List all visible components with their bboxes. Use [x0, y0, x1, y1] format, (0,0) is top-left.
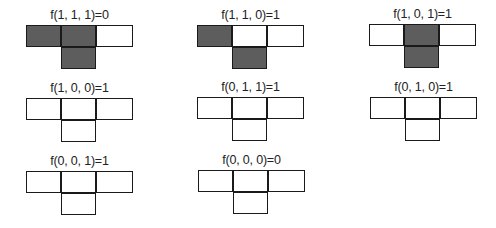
cell-center	[232, 25, 267, 47]
cell-right	[267, 25, 304, 47]
cell-right	[440, 97, 477, 119]
cell-center	[233, 170, 268, 192]
cell-right	[96, 171, 133, 193]
rule-label: f(0, 1, 0)=1	[370, 80, 477, 94]
cell-left	[197, 97, 232, 119]
cell-center	[61, 98, 96, 120]
cell-output	[61, 193, 96, 215]
cell-left	[26, 98, 61, 120]
rule-label: f(0, 1, 1)=1	[197, 80, 304, 94]
rule-label: f(1, 0, 1)=1	[369, 7, 476, 21]
cell-center	[61, 25, 96, 47]
cell-right	[268, 170, 305, 192]
rule-label: f(1, 1, 1)=0	[26, 8, 133, 22]
rule-label: f(1, 1, 0)=1	[197, 8, 304, 22]
cell-left	[197, 25, 232, 47]
cell-center	[61, 171, 96, 193]
cell-center	[405, 97, 440, 119]
rule-label: f(0, 0, 0)=0	[198, 153, 305, 167]
cell-output	[405, 119, 440, 141]
cell-left	[26, 25, 61, 47]
cell-right	[96, 98, 133, 120]
cell-center	[404, 24, 439, 46]
cell-right	[439, 24, 476, 46]
cell-output	[232, 119, 267, 141]
cell-output	[61, 120, 96, 142]
cell-center	[232, 97, 267, 119]
cell-left	[370, 97, 405, 119]
cell-left	[369, 24, 404, 46]
cell-left	[26, 171, 61, 193]
cell-output	[404, 46, 439, 68]
rule-010: f(0, 1, 0)=1	[370, 97, 477, 163]
cell-output	[61, 47, 96, 69]
rule-label: f(0, 0, 1)=1	[26, 154, 133, 168]
rule-001: f(0, 0, 1)=1	[26, 171, 133, 228]
cell-output	[233, 192, 268, 214]
cell-right	[267, 97, 304, 119]
cell-output	[232, 47, 267, 69]
cell-right	[96, 25, 133, 47]
rule-label: f(1, 0, 0)=1	[26, 81, 133, 95]
rule-000: f(0, 0, 0)=0	[198, 170, 305, 228]
cell-left	[198, 170, 233, 192]
